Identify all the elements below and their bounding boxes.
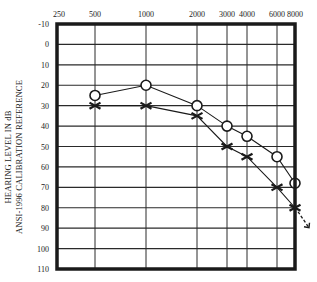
y-tick-label: 80 <box>41 204 49 213</box>
x-tick-labels: 250500100020003000400060008000 <box>53 10 303 19</box>
x-tick-label: 3000 <box>219 10 235 19</box>
y-tick-label: 0 <box>45 40 49 49</box>
circle-marker <box>192 101 202 111</box>
circle-marker <box>272 152 282 162</box>
circle-marker <box>141 80 151 90</box>
y-axis-label-line-2: ANSI-1996 CALIBRATION REFERENCE <box>14 67 25 247</box>
y-tick-label: 10 <box>41 61 49 70</box>
series-line <box>95 106 295 208</box>
x-tick-label: 250 <box>53 10 65 19</box>
y-tick-label: 60 <box>41 163 49 172</box>
x-tick-label: 1000 <box>138 10 154 19</box>
no-response-arrow <box>298 212 309 228</box>
circle-marker <box>242 131 252 141</box>
y-axis-label: HEARING LEVEL IN dB ANSI-1996 CALIBRATIO… <box>3 67 25 247</box>
y-axis-label-line-1: HEARING LEVEL IN dB <box>3 67 14 247</box>
series-circles <box>90 80 300 188</box>
y-tick-label: 20 <box>41 81 49 90</box>
y-tick-label: 100 <box>37 245 49 254</box>
x-tick-label: 2000 <box>189 10 205 19</box>
y-tick-label: -10 <box>38 20 49 29</box>
y-tick-label: 90 <box>41 224 49 233</box>
audiogram-chart: 250500100020003000400060008000 -10010203… <box>0 0 317 282</box>
x-tick-label: 500 <box>89 10 101 19</box>
y-tick-label: 30 <box>41 102 49 111</box>
circle-marker <box>222 121 232 131</box>
y-tick-labels: -100102030405060708090100110 <box>37 20 49 274</box>
x-tick-label: 4000 <box>239 10 255 19</box>
y-tick-label: 50 <box>41 143 49 152</box>
circle-marker <box>90 90 100 100</box>
y-tick-label: 70 <box>41 183 49 192</box>
x-tick-label: 8000 <box>287 10 303 19</box>
y-tick-label: 40 <box>41 122 49 131</box>
grid-lines <box>57 24 295 269</box>
series-line <box>95 85 295 183</box>
y-tick-label: 110 <box>37 265 49 274</box>
x-tick-label: 6000 <box>269 10 285 19</box>
